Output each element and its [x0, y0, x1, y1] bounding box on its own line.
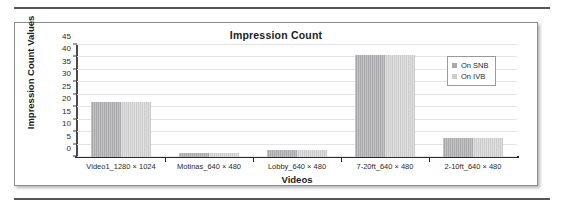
x-tick-label: Motinas_640 × 480	[165, 162, 253, 171]
bar-on-ivb	[473, 138, 503, 157]
y-tick-label: 25	[49, 81, 71, 90]
legend-label: On SNB	[461, 61, 489, 70]
chart-legend: On SNBOn IVB	[447, 56, 496, 86]
y-tick-label: 20	[49, 94, 71, 103]
bar-on-ivb	[297, 150, 327, 157]
screenshot-root: Impression Count Impression Count Values…	[0, 0, 565, 206]
x-tick-label: 2-10ft_640 × 480	[429, 162, 517, 171]
bar-group	[165, 45, 253, 157]
top-horizontal-rule	[14, 7, 550, 9]
x-tick-label: 7-20ft_640 × 480	[341, 162, 429, 171]
y-tick-label: 0	[49, 144, 71, 153]
y-tick-label: 35	[49, 56, 71, 65]
y-tick-label: 15	[49, 106, 71, 115]
bar-on-snb	[91, 102, 121, 157]
bar-on-ivb	[121, 102, 151, 157]
legend-item: On SNB	[452, 60, 489, 71]
y-tick-label: 45	[49, 32, 71, 41]
bottom-horizontal-rule	[14, 198, 550, 200]
y-tick-label: 30	[49, 69, 71, 78]
bar-group	[77, 45, 165, 157]
chart-title: Impression Count	[15, 29, 537, 41]
bar-on-snb	[443, 138, 473, 157]
bar-on-snb	[355, 55, 385, 157]
y-axis-title: Impression Count Values	[25, 14, 36, 132]
bar-group	[341, 45, 429, 157]
y-tick-label: 40	[49, 44, 71, 53]
legend-swatch-icon	[452, 74, 457, 79]
chart-figure-frame: Impression Count Impression Count Values…	[14, 22, 538, 186]
bar-group	[253, 45, 341, 157]
legend-label: On IVB	[461, 72, 485, 81]
legend-item: On IVB	[452, 71, 489, 82]
y-tick-label: 5	[49, 131, 71, 140]
x-axis-tick-labels: Video1_1280 × 1024Motinas_640 × 480Lobby…	[77, 162, 517, 171]
y-tick-label: 10	[49, 119, 71, 128]
x-tick-label: Video1_1280 × 1024	[77, 162, 165, 171]
legend-swatch-icon	[452, 63, 457, 68]
x-tick-label: Lobby_640 × 480	[253, 162, 341, 171]
x-axis-title: Videos	[77, 174, 517, 185]
bar-on-ivb	[385, 55, 415, 157]
bar-on-snb	[267, 150, 297, 157]
